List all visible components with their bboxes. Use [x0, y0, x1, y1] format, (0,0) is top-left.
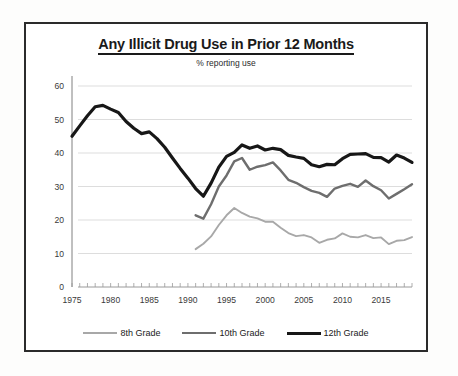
series-line-8th-grade: [196, 208, 412, 249]
y-axis-tick-label-60: 60: [54, 81, 64, 91]
x-axis-tick-label-1995: 1995: [217, 295, 236, 305]
y-axis-tick-label-10: 10: [54, 249, 64, 259]
y-axis-tick-label-40: 40: [54, 148, 64, 158]
legend-label-8th-grade: 8th Grade: [120, 328, 160, 338]
legend-line-10th-grade-icon: [182, 332, 216, 334]
x-axis-tick-label-1985: 1985: [140, 295, 159, 305]
x-axis-tick-label-2000: 2000: [256, 295, 275, 305]
x-axis-tick-label-2005: 2005: [294, 295, 313, 305]
chart-frame: Any Illicit Drug Use in Prior 12 Months …: [24, 22, 428, 352]
legend-label-10th-grade: 10th Grade: [219, 328, 264, 338]
x-axis-tick-label-2010: 2010: [333, 295, 352, 305]
y-axis-tick-label-30: 30: [54, 182, 64, 192]
x-axis-tick-label-1990: 1990: [178, 295, 197, 305]
legend-item-8th-grade[interactable]: 8th Grade: [83, 328, 160, 338]
x-axis-tick-label-1975: 1975: [62, 295, 81, 305]
y-axis-tick-label-0: 0: [59, 282, 64, 292]
legend-line-12th-grade-icon: [287, 332, 321, 335]
legend-item-10th-grade[interactable]: 10th Grade: [182, 328, 264, 338]
line-chart-svg: 0102030405060197519801985199019952000200…: [26, 24, 426, 350]
y-axis-tick-label-50: 50: [54, 115, 64, 125]
page-background: Any Illicit Drug Use in Prior 12 Months …: [0, 0, 458, 376]
chart-legend: 8th Grade 10th Grade 12th Grade: [26, 328, 426, 338]
series-line-12th-grade: [72, 105, 412, 196]
y-axis-tick-label-20: 20: [54, 215, 64, 225]
legend-line-8th-grade-icon: [83, 332, 117, 334]
x-axis-tick-label-1980: 1980: [101, 295, 120, 305]
legend-item-12th-grade[interactable]: 12th Grade: [287, 328, 369, 338]
series-line-10th-grade: [196, 158, 412, 219]
x-axis-tick-label-2015: 2015: [372, 295, 391, 305]
legend-label-12th-grade: 12th Grade: [324, 328, 369, 338]
plot-area: 0102030405060197519801985199019952000200…: [26, 24, 426, 350]
